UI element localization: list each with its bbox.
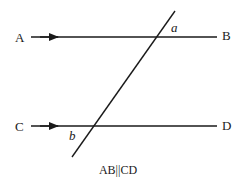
angle-b-label: b bbox=[69, 128, 76, 143]
transversal-line bbox=[72, 11, 175, 157]
caption: AB||CD bbox=[99, 163, 137, 177]
label-d-point: D bbox=[222, 118, 231, 133]
label-b-point: B bbox=[222, 28, 231, 43]
label-c-point: C bbox=[15, 119, 24, 134]
angle-a-label: a bbox=[171, 20, 178, 35]
parallel-lines-diagram: A B C D a b AB||CD bbox=[0, 0, 240, 184]
label-a-point: A bbox=[15, 30, 25, 45]
